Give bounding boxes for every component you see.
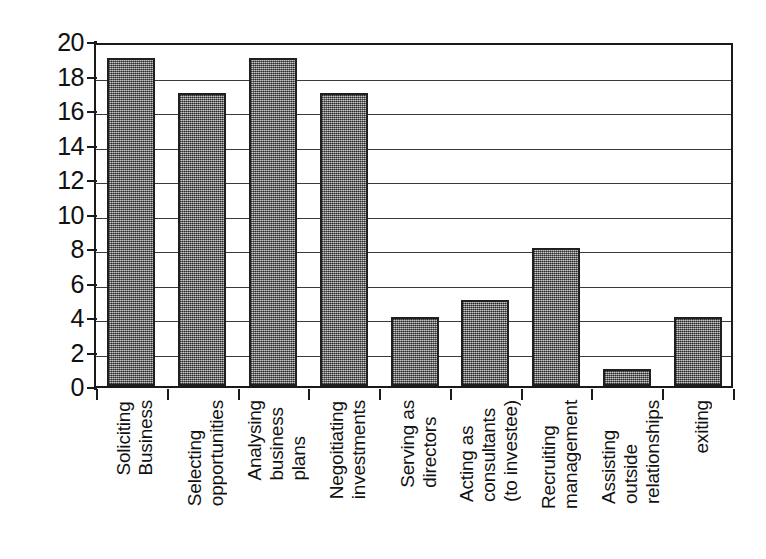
x-tick-mark-4 <box>379 389 381 400</box>
bar <box>178 93 226 386</box>
y-tick-label-12: 12 <box>38 168 84 193</box>
category-label: Negoitiating investments <box>326 400 370 499</box>
category-label: Selecting opportunities <box>184 400 228 506</box>
bars <box>96 45 731 386</box>
x-tick-mark-7 <box>591 389 593 400</box>
y-tick-label-2: 2 <box>38 341 84 366</box>
y-tick-mark-8 <box>87 249 97 251</box>
y-tick-mark-18 <box>87 77 97 79</box>
y-tick-mark-4 <box>87 318 97 320</box>
y-tick-mark-6 <box>87 284 97 286</box>
category-label: Analysing business plans <box>244 400 310 481</box>
y-tick-mark-20 <box>87 42 97 44</box>
bar <box>461 300 509 386</box>
bar <box>674 317 722 386</box>
y-tick-label-4: 4 <box>38 306 84 331</box>
y-tick-label-6: 6 <box>38 272 84 297</box>
x-axis-category-labels: Soliciting BusinessSelecting opportuniti… <box>0 400 766 559</box>
bar <box>249 58 297 386</box>
x-tick-mark-3 <box>308 389 310 400</box>
bar-chart: 20181614121086420 Soliciting BusinessSel… <box>0 0 766 559</box>
bar <box>603 369 651 386</box>
x-tick-mark-8 <box>662 389 664 400</box>
bar <box>107 58 155 386</box>
y-tick-label-14: 14 <box>38 134 84 159</box>
x-tick-mark-2 <box>238 389 240 400</box>
y-tick-label-8: 8 <box>38 237 84 262</box>
bar <box>320 93 368 386</box>
category-label: Recruiting management <box>538 400 582 509</box>
x-tick-mark-6 <box>521 389 523 400</box>
y-tick-mark-10 <box>87 215 97 217</box>
x-tick-mark-0 <box>96 389 98 400</box>
x-tick-mark-1 <box>167 389 169 400</box>
y-tick-mark-2 <box>87 353 97 355</box>
bar <box>532 248 580 386</box>
bar <box>391 317 439 386</box>
plot-area <box>96 43 733 388</box>
y-tick-label-18: 18 <box>38 65 84 90</box>
y-tick-mark-14 <box>87 146 97 148</box>
y-tick-label-10: 10 <box>38 203 84 228</box>
x-tick-mark-end <box>733 389 735 400</box>
y-tick-mark-12 <box>87 180 97 182</box>
y-tick-label-20: 20 <box>38 30 84 55</box>
category-label: Soliciting Business <box>113 400 157 476</box>
category-label: Assisting outside relationships <box>598 400 664 504</box>
x-tick-mark-5 <box>450 389 452 400</box>
y-tick-label-16: 16 <box>38 99 84 124</box>
y-tick-label-0: 0 <box>38 375 84 400</box>
category-label: Serving as directors <box>397 400 441 488</box>
category-label: exiting <box>691 400 713 454</box>
y-tick-mark-16 <box>87 111 97 113</box>
category-label: Acting as consultants (to investee) <box>456 400 522 502</box>
